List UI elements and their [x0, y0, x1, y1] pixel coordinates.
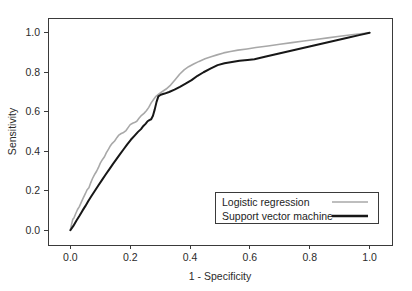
chart-legend[interactable]: Logistic regressionSupport vector machin… [215, 192, 378, 223]
y-tick-label: 0.6 [25, 105, 40, 117]
y-tick-label: 0.8 [25, 66, 40, 78]
roc-plot-svg: 0.00.20.40.60.81.00.00.20.40.60.81.0 1 -… [0, 0, 412, 291]
x-tick-label: 1.0 [362, 251, 377, 263]
x-tick-label: 0.0 [63, 251, 78, 263]
y-tick-label: 0.0 [25, 224, 40, 236]
y-tick-label: 0.4 [25, 145, 40, 157]
x-axis-title: 1 - Specificity [189, 270, 252, 282]
legend-item-label[interactable]: Logistic regression [222, 196, 310, 208]
y-axis-title: Sensitivity [6, 107, 18, 155]
x-tick-label: 0.8 [302, 251, 317, 263]
x-tick-label: 0.2 [123, 251, 138, 263]
tick-labels: 0.00.20.40.60.81.00.00.20.40.60.81.0 [25, 26, 377, 263]
x-tick-label: 0.4 [183, 251, 198, 263]
y-tick-label: 0.2 [25, 184, 40, 196]
x-tick-label: 0.6 [243, 251, 258, 263]
roc-curve-figure: 0.00.20.40.60.81.00.00.20.40.60.81.0 1 -… [0, 0, 412, 291]
y-tick-label: 1.0 [25, 26, 40, 38]
legend-item-label[interactable]: Support vector machine [222, 210, 333, 222]
